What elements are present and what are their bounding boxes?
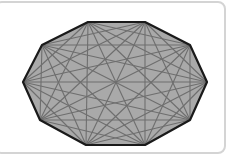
decagon-diagram xyxy=(0,0,221,162)
